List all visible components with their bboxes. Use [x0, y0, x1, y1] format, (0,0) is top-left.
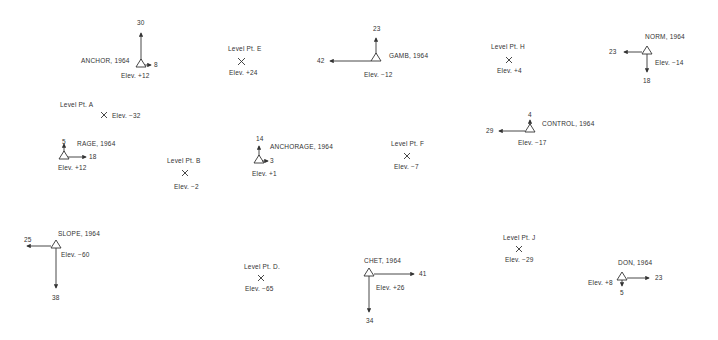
triangle-icon [136, 59, 146, 67]
station-elevation: Elev. +26 [376, 285, 405, 292]
arrow-value-left: 23 [609, 49, 617, 56]
arrow-value-down: 18 [643, 78, 651, 85]
x-mark-icon [506, 57, 512, 63]
triangle-icon [617, 272, 627, 280]
station-control-symbol [499, 120, 535, 132]
arrow-value-left: 29 [486, 128, 494, 135]
x-mark-icon [238, 58, 245, 65]
arrow-value-up: 23 [373, 26, 381, 33]
level-point-name: Level Pt. E [228, 46, 262, 53]
station-gamb-symbol [330, 38, 381, 61]
arrow-value-right: 41 [419, 271, 427, 278]
station-anchor-symbol [136, 33, 151, 67]
station-elevation: Elev. +8 [588, 280, 613, 287]
x-mark-icon [404, 153, 410, 159]
level-point-elevation: Elev. +24 [229, 70, 258, 77]
station-name: SLOPE, 1964 [58, 231, 100, 238]
arrow-value-right: 3 [270, 158, 274, 165]
arrow-value-up: 4 [528, 112, 532, 119]
triangle-icon [254, 155, 264, 163]
station-elevation: Elev. −14 [655, 60, 684, 67]
station-elevation: Elev. +12 [121, 73, 150, 80]
level-point-elevation: Elev. +4 [497, 68, 522, 75]
arrow-value-right: 23 [655, 275, 663, 282]
station-name: DON, 1964 [618, 260, 652, 267]
level-point-name: Level Pt. D. [244, 264, 280, 271]
level-point-name: Level Pt. F [391, 141, 424, 148]
level-point-name: Level Pt. B [167, 158, 201, 165]
station-name: ANCHOR, 1964 [81, 58, 130, 65]
station-elevation: Elev. −12 [364, 72, 393, 79]
x-mark-icon [101, 112, 107, 118]
station-slope-symbol [27, 240, 61, 288]
arrow-value-right: 18 [89, 154, 97, 161]
station-don-symbol [617, 272, 649, 286]
x-mark-icon [516, 246, 522, 252]
station-name: CHET, 1964 [364, 258, 401, 265]
arrow-value-left: 42 [317, 58, 325, 65]
station-elevation: Elev. +1 [252, 171, 277, 178]
level-point-elevation: Elev. −2 [174, 184, 199, 191]
station-name: GAMB, 1964 [389, 53, 428, 60]
triangle-icon [642, 46, 652, 54]
arrow-value-up: 5 [62, 139, 66, 146]
station-name: NORM, 1964 [645, 34, 685, 41]
station-name: ANCHORAGE, 1964 [270, 144, 333, 151]
station-name: CONTROL, 1964 [542, 121, 594, 128]
arrow-value-down: 38 [52, 295, 60, 302]
arrow-value-up: 14 [256, 136, 264, 143]
station-name: RAGE, 1964 [77, 141, 116, 148]
level-point-name: Level Pt. A [60, 102, 93, 109]
triangle-icon [51, 240, 61, 248]
level-point-name: Level Pt. H [491, 44, 525, 51]
arrow-value-down: 34 [366, 318, 374, 325]
x-mark-icon [258, 275, 264, 281]
station-elevation: Elev. +12 [58, 165, 87, 172]
station-norm-symbol [624, 46, 652, 72]
x-mark-icon [182, 170, 188, 176]
station-elevation: Elev. −17 [518, 140, 547, 147]
survey-displacement-diagram: ANCHOR, 1964 30 8 Elev. +12 GAMB, 1964 2… [0, 0, 718, 340]
level-point-elevation: Elev. −29 [505, 257, 534, 264]
station-anchorage-symbol [254, 146, 268, 163]
arrow-value-up: 30 [137, 20, 145, 27]
triangle-icon [364, 268, 374, 276]
level-point-elevation: Elev. −32 [112, 113, 141, 120]
triangle-icon [371, 53, 381, 61]
arrow-value-down: 5 [620, 290, 624, 297]
level-point-name: Level Pt. J [503, 235, 536, 242]
station-elevation: Elev. −60 [61, 252, 90, 259]
level-point-elevation: Elev. −7 [394, 164, 419, 171]
triangle-icon [59, 151, 69, 159]
arrow-value-left: 25 [24, 237, 32, 244]
level-point-elevation: Elev. −65 [245, 286, 274, 293]
arrow-value-right: 8 [154, 62, 158, 69]
triangle-icon [525, 124, 535, 132]
